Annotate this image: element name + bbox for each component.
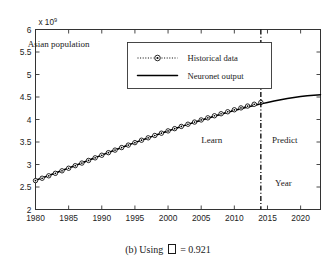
- x-tick-label: 2020: [291, 213, 310, 223]
- legend-label-historical-data: Historical data: [188, 53, 239, 63]
- historical-data-marker-core: [227, 111, 229, 113]
- historical-data-marker-core: [68, 167, 70, 169]
- historical-data-marker-core: [233, 109, 235, 111]
- historical-data-marker-core: [207, 117, 209, 119]
- x-tick-label: 1995: [126, 213, 145, 223]
- y-axis-exponent-label: x 109: [39, 17, 58, 27]
- caption-prefix: (b) Using: [125, 244, 163, 255]
- historical-data-marker-core: [35, 180, 37, 182]
- historical-data-marker-core: [121, 147, 123, 149]
- y-tick-label: 2: [27, 205, 32, 215]
- population-forecast-chart: 19801985199019952000200520102015202022.5…: [0, 0, 336, 263]
- annotation-asian-population: Asian population: [28, 39, 90, 49]
- historical-data-marker-core: [55, 172, 57, 174]
- y-tick-label: 5: [27, 70, 32, 80]
- annotation-predict: Predict: [272, 135, 298, 145]
- y-tick-label: 2.5: [20, 182, 32, 192]
- historical-data-marker-core: [94, 157, 96, 159]
- historical-data-marker-core: [74, 165, 76, 167]
- historical-data-marker-core: [48, 175, 50, 177]
- caption-symbol-glyph: [168, 244, 176, 254]
- historical-data-marker-core: [41, 177, 43, 179]
- historical-data-marker-core: [81, 162, 83, 164]
- y-tick-label: 3: [27, 160, 32, 170]
- historical-data-marker-core: [108, 152, 110, 154]
- x-tick-label: 2010: [225, 213, 244, 223]
- legend-label-neuronet-output: Neuronet output: [188, 71, 245, 81]
- x-tick-label: 2005: [192, 213, 211, 223]
- historical-data-marker-core: [101, 154, 103, 156]
- historical-data-marker-core: [167, 130, 169, 132]
- y-tick-label: 4.5: [20, 92, 32, 102]
- historical-data-marker-core: [88, 160, 90, 162]
- historical-data-marker-core: [141, 139, 143, 141]
- historical-data-marker-core: [161, 132, 163, 134]
- x-tick-label: 2000: [159, 213, 178, 223]
- x-tick-label: 2015: [258, 213, 277, 223]
- historical-data-marker-core: [253, 103, 255, 105]
- y-tick-label: 3.5: [20, 137, 32, 147]
- historical-data-marker-core: [114, 149, 116, 151]
- y-tick-label: 6: [27, 25, 32, 35]
- historical-data-marker-core: [147, 137, 149, 139]
- x-tick-label: 1985: [59, 213, 78, 223]
- annotation-learn: Learn: [201, 135, 222, 145]
- historical-data-marker-core: [61, 170, 63, 172]
- figure-container: 19801985199019952000200520102015202022.5…: [0, 0, 336, 263]
- historical-data-marker-core: [180, 126, 182, 128]
- caption-suffix: = 0.921: [180, 244, 211, 255]
- historical-data-marker-core: [127, 144, 129, 146]
- y-tick-label: 4: [27, 115, 32, 125]
- historical-data-marker-core: [200, 119, 202, 121]
- historical-data-marker-core: [134, 142, 136, 144]
- annotation-year: Year: [275, 178, 292, 188]
- legend-marker-core: [156, 57, 158, 59]
- historical-data-marker-core: [174, 128, 176, 130]
- figure-caption: (b) Using = 0.921: [0, 244, 336, 255]
- historical-data-marker-core: [240, 107, 242, 109]
- legend-box: [128, 43, 272, 89]
- x-tick-label: 1990: [92, 213, 111, 223]
- historical-data-marker-core: [187, 123, 189, 125]
- historical-data-marker-core: [220, 113, 222, 115]
- historical-data-marker-core: [214, 115, 216, 117]
- historical-data-marker-core: [154, 135, 156, 137]
- historical-data-marker-core: [194, 121, 196, 123]
- historical-data-marker-core: [247, 105, 249, 107]
